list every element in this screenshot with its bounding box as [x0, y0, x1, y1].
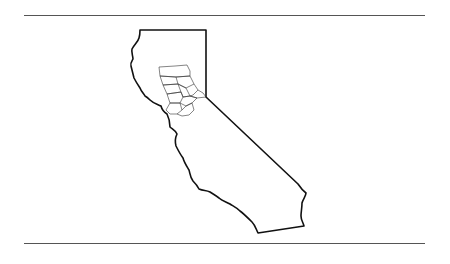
county-southern-cluster: [166, 103, 194, 116]
county-top-row: [159, 65, 190, 77]
northern-county-boundaries: [159, 65, 206, 116]
california-map: [0, 0, 450, 264]
county-second-row: [160, 76, 194, 88]
california-state-outline: [131, 30, 306, 233]
county-east-strip: [190, 84, 206, 98]
